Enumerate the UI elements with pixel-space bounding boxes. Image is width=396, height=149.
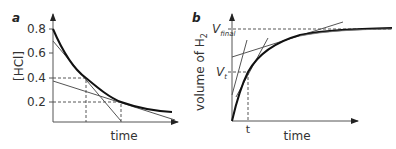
x-axis-label: time [283, 129, 310, 143]
tick-0-2: 0.2 [27, 95, 46, 109]
guide-0-4 [53, 78, 86, 122]
figure: a 0.8 0.6 0.4 0.2 [HCl] time b Vfinal [0, 0, 396, 149]
panel-a-label: a [12, 11, 20, 25]
y-axis-label: volume of H2 [193, 33, 209, 111]
tangent-shallow [53, 81, 175, 120]
guide-0-2 [53, 102, 121, 122]
tangent-steep [53, 41, 121, 121]
tangent-early [232, 40, 247, 95]
panel-b: b Vfinal Vt t volume of H2 time [192, 11, 392, 143]
x-axis-label: time [110, 129, 137, 143]
panel-b-label: b [192, 11, 201, 25]
panel-a: a 0.8 0.6 0.4 0.2 [HCl] time [12, 11, 178, 143]
v-t-label: Vt [216, 65, 227, 81]
y-axis-label: [HCl] [12, 51, 26, 81]
tick-0-4: 0.4 [27, 71, 46, 85]
volume-curve [232, 28, 392, 121]
tick-0-8: 0.8 [27, 22, 46, 36]
t-tick-label: t [246, 123, 251, 136]
tick-0-6: 0.6 [27, 46, 46, 60]
